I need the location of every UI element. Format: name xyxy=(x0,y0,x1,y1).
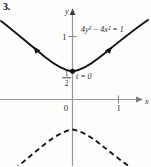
y-axis-arrow-icon xyxy=(70,9,76,16)
y-axis-label: y xyxy=(64,7,69,16)
equation-label: 4y² − 4x² = 1 xyxy=(81,25,124,34)
origin-label: 0 xyxy=(64,103,68,113)
lower-branch-path xyxy=(1,130,148,167)
y-intercept-numerator: 1 xyxy=(65,69,69,78)
lower-branch-curve xyxy=(1,130,148,167)
y-intercept-denominator: 2 xyxy=(65,79,69,88)
x-axis-label: x xyxy=(144,97,149,106)
vertex-point-marker xyxy=(70,69,75,74)
y-tick-label-1: 1 xyxy=(62,32,66,42)
coordinate-plot: y x 0 1 1 4y² − 4x² = 1 t = 0 1 2 xyxy=(0,0,151,166)
parameter-value-label: t = 0 xyxy=(76,72,92,81)
x-tick-label-1: 1 xyxy=(116,103,120,113)
figure-container: 3. xyxy=(0,0,151,166)
upper-branch-curve xyxy=(1,20,148,74)
upper-branch-path xyxy=(1,20,148,72)
x-axis-arrow-icon xyxy=(136,97,143,103)
